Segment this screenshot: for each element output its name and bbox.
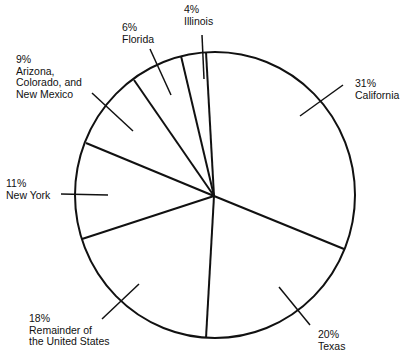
leader-california xyxy=(300,85,343,116)
label-newyork-percent: 11% xyxy=(6,178,50,190)
label-remainder-name-2: the United States xyxy=(29,336,110,348)
label-arizona-name-3: New Mexico xyxy=(16,89,82,101)
label-newyork: 11% New York xyxy=(6,178,50,201)
boundary-remainder-newyork xyxy=(82,196,214,239)
label-texas-name: Texas xyxy=(318,341,345,353)
label-illinois-percent: 4% xyxy=(184,4,213,16)
label-remainder: 18% Remainder of the United States xyxy=(29,313,110,348)
label-newyork-name: New York xyxy=(6,190,50,202)
label-illinois-name: Illinois xyxy=(184,16,213,28)
leader-illinois xyxy=(202,35,204,79)
boundary-illinois-california xyxy=(206,52,214,196)
pie-outline xyxy=(75,52,355,338)
label-arizona: 9% Arizona, Colorado, and New Mexico xyxy=(16,54,82,100)
boundary-florida-illinois xyxy=(181,56,214,196)
label-illinois: 4% Illinois xyxy=(184,4,213,27)
label-florida: 6% Florida xyxy=(122,22,154,45)
label-texas: 20% Texas xyxy=(318,329,345,352)
label-arizona-name-2: Colorado, and xyxy=(16,77,82,89)
leader-newyork xyxy=(61,194,108,195)
label-florida-name: Florida xyxy=(122,34,154,46)
label-california-percent: 31% xyxy=(355,78,399,90)
label-arizona-percent: 9% xyxy=(16,54,82,66)
label-florida-percent: 6% xyxy=(122,22,154,34)
boundary-california-texas xyxy=(214,196,344,249)
label-california: 31% California xyxy=(355,78,399,101)
label-texas-percent: 20% xyxy=(318,329,345,341)
leader-florida xyxy=(150,49,171,95)
label-california-name: California xyxy=(355,90,399,102)
label-remainder-percent: 18% xyxy=(29,313,110,325)
boundary-texas-remainder xyxy=(206,196,214,338)
